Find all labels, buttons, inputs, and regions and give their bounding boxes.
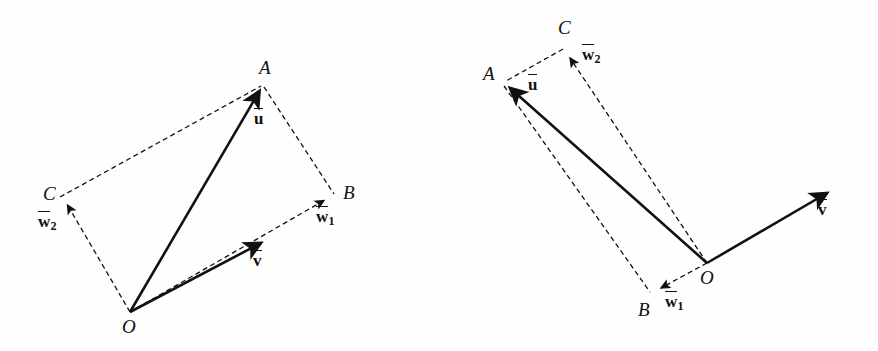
left-label-vector-w1-subscript: 1: [329, 214, 335, 228]
left-label-vector-w2: w2: [38, 211, 57, 232]
right-panel: [504, 49, 827, 292]
left-label-point-B: B: [343, 183, 355, 202]
right-label-vector-u-text: u: [528, 74, 537, 93]
left-edge-O-to-C: [68, 205, 131, 312]
left-label-vector-w2-letter: w: [38, 211, 50, 230]
left-label-vector-u-text: u: [254, 108, 263, 127]
right-vector-v: [707, 193, 827, 263]
right-label-point-O: O: [700, 268, 714, 287]
left-label-point-C: C: [43, 184, 56, 203]
right-label-vector-w1-subscript: 1: [678, 299, 684, 313]
left-label-point-O: O: [122, 317, 136, 336]
left-label-vector-w1: w1: [316, 206, 335, 227]
right-label-vector-u: u: [528, 74, 537, 93]
left-label-vector-w1-letter: w: [316, 206, 328, 225]
right-label-vector-w2-subscript: 2: [595, 52, 601, 66]
left-edge-A-to-B: [264, 87, 334, 194]
right-label-vector-w1: w1: [665, 291, 684, 312]
left-panel: [60, 86, 334, 312]
left-label-vector-u: u: [254, 108, 263, 127]
right-solid-vectors: [510, 88, 827, 263]
left-label-vector-v: v: [253, 250, 262, 269]
vector-diagram-canvas: [0, 0, 878, 351]
left-label-vector-w2-subscript: 2: [51, 219, 57, 233]
right-edge-A-to-B: [504, 86, 650, 292]
right-label-point-B: B: [638, 300, 650, 319]
right-label-vector-v-text: v: [818, 199, 827, 218]
right-vector-u: [510, 88, 707, 263]
right-label-point-C: C: [558, 18, 571, 37]
right-label-vector-w1-letter: w: [665, 291, 677, 310]
right-label-vector-w2-letter: w: [582, 44, 594, 63]
left-solid-vectors: [130, 91, 261, 312]
right-label-point-A: A: [483, 64, 495, 83]
left-label-point-A: A: [259, 58, 271, 77]
right-label-vector-v: v: [818, 199, 827, 218]
right-label-vector-w2: w2: [582, 44, 601, 65]
left-label-vector-v-text: v: [253, 250, 262, 269]
figure-root: A u B w1 C w2 O v C w2 A u O B w1 v: [0, 0, 878, 351]
